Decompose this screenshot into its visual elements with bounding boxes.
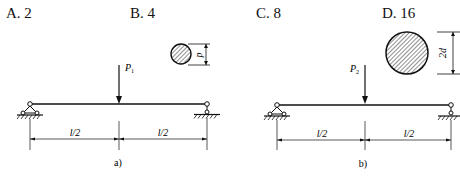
beam-diagrams: d P1 [0,0,460,178]
load-arrow-p2: P2 [349,63,368,104]
caption-b: b) [359,158,367,170]
span-right-b: l/2 [404,128,415,139]
span-left-b: l/2 [317,128,328,139]
cross-section-a: d [171,44,210,65]
svg-text:P2: P2 [349,63,359,75]
figure-a: d P1 [17,44,220,169]
section-dim-a: d [195,53,206,59]
caption-a: a) [114,157,122,169]
span-right-a: l/2 [158,127,169,138]
load-arrow-p1: P1 [116,62,134,104]
dimension-a [30,118,207,150]
cross-section-b: 2d [386,32,460,74]
dimension-b [277,120,451,150]
figure-b: 2d P2 [264,32,460,170]
section-dim-b: 2d [437,47,448,58]
svg-text:P1: P1 [124,62,134,74]
span-left-a: l/2 [70,127,81,138]
